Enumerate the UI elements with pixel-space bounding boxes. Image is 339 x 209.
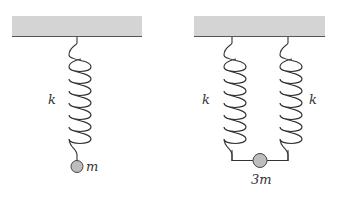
- left-mass-label: m: [86, 159, 98, 174]
- left-system: k m: [12, 16, 142, 174]
- right-spring-label-right: k: [309, 92, 317, 107]
- right-mass-label: 3m: [251, 172, 272, 187]
- right-spring-right: [280, 37, 302, 161]
- left-ceiling: [12, 16, 142, 36]
- right-ceiling: [194, 16, 325, 36]
- spring-mass-diagram: k m k k 3m: [0, 0, 339, 209]
- right-system: k k 3m: [194, 16, 325, 187]
- right-spring-left: [224, 37, 246, 161]
- left-spring-label: k: [48, 92, 56, 107]
- left-mass: [71, 161, 83, 173]
- left-spring: [69, 37, 91, 161]
- right-mass: [253, 154, 267, 168]
- right-spring-label-left: k: [202, 92, 210, 107]
